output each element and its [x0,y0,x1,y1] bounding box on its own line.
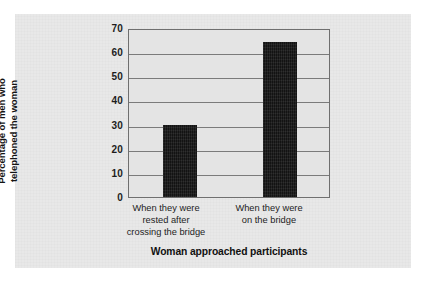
gridline [129,127,329,128]
figure: Percentage of men who telephoned the wom… [0,0,428,282]
gridline [129,175,329,176]
bar [163,125,197,197]
y-axis-title: Percentage of men who telephoned the wom… [0,46,22,216]
gridline [129,151,329,152]
y-tick-label: 50 [111,72,123,82]
y-tick-label: 30 [111,121,123,131]
x-axis-title: Woman approached participants [128,246,330,257]
y-tick-label: 60 [111,48,123,58]
x-category-label: When they were on the bridge [224,202,314,226]
gridline [129,54,329,55]
plot-area [128,29,330,198]
y-axis-title-text: Percentage of men who telephoned the wom… [0,78,21,184]
y-tick-label: 40 [111,96,123,106]
y-tick-label: 70 [111,24,123,34]
y-tick-label: 20 [111,145,123,155]
y-tick-label: 10 [111,169,123,179]
gridline [129,102,329,103]
x-category-label: When they were rested after crossing the… [118,202,214,238]
gridline [129,78,329,79]
y-axis-tick-labels: 70 60 50 40 30 20 10 0 [98,29,123,198]
bar [263,42,297,197]
